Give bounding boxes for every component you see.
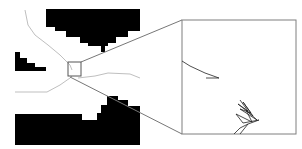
map-figure xyxy=(0,0,302,149)
zoom-inset-frame xyxy=(182,20,296,134)
